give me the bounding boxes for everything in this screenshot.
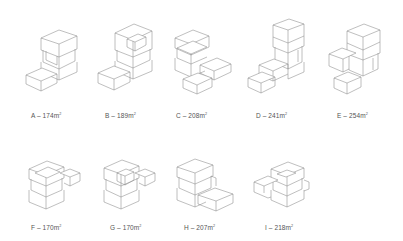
variant-c: C – 208m2 bbox=[165, 20, 245, 140]
massing-diagram-c bbox=[165, 20, 240, 100]
massing-diagram-e bbox=[325, 20, 400, 100]
variant-i: I – 218m2 bbox=[250, 155, 330, 241]
variant-a: A – 174m2 bbox=[20, 20, 100, 140]
variant-e: E – 254m2 bbox=[325, 20, 403, 140]
variant-label-b: B – 189m2 bbox=[105, 112, 136, 119]
massing-diagram-f bbox=[20, 150, 90, 220]
variant-d: D – 241m2 bbox=[245, 15, 325, 135]
massing-diagram-b bbox=[95, 15, 165, 100]
massing-diagram-a bbox=[20, 20, 90, 100]
variant-h: H – 207m2 bbox=[170, 150, 250, 241]
massing-diagram-d bbox=[245, 15, 320, 100]
variant-label-a: A – 174m2 bbox=[31, 112, 62, 119]
variant-label-h: H – 207m2 bbox=[184, 224, 215, 231]
variant-label-d: D – 241m2 bbox=[256, 112, 287, 119]
variant-g: G – 170m2 bbox=[95, 150, 175, 241]
massing-diagram-i bbox=[250, 155, 325, 220]
massing-diagram-h bbox=[170, 150, 245, 220]
variant-label-f: F – 170m2 bbox=[31, 224, 62, 231]
massing-diagram-g bbox=[95, 150, 165, 220]
variant-label-i: I – 218m2 bbox=[265, 224, 293, 231]
variant-b: B – 189m2 bbox=[95, 15, 175, 135]
variant-label-e: E – 254m2 bbox=[337, 112, 368, 119]
variant-f: F – 170m2 bbox=[20, 150, 100, 241]
variant-label-c: C – 208m2 bbox=[176, 112, 207, 119]
variant-label-g: G – 170m2 bbox=[110, 224, 142, 231]
